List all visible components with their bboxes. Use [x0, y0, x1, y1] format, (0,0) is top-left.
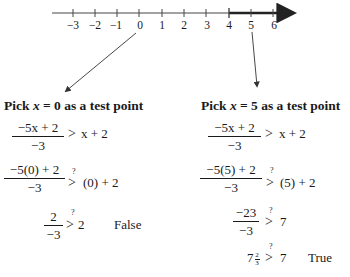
left-step3-fraction: 2 −3	[44, 210, 63, 241]
tick-label: 3	[204, 19, 210, 31]
right-step4-mixed-number: 723	[247, 251, 260, 267]
tick-label: −2	[89, 19, 101, 31]
right-heading: Pick x = 5 as a test point	[201, 98, 340, 114]
tick-label: −1	[110, 19, 122, 31]
tick-label: −3	[67, 19, 79, 31]
left-step3-rhs: 2	[78, 218, 85, 232]
left-step1-fraction: −5x + 2 −3	[12, 121, 64, 152]
number-line	[0, 0, 350, 100]
greater-than-sign: >	[265, 251, 273, 265]
right-step1-rhs: x + 2	[279, 127, 306, 141]
question-mark: ?	[71, 209, 75, 217]
greater-than-sign: >	[66, 218, 74, 232]
left-verdict: False	[114, 218, 141, 232]
right-step3-fraction: −23 −3	[233, 206, 259, 237]
right-step3-rhs: 7	[280, 215, 287, 229]
tick-label: 5	[248, 19, 254, 31]
tick-label: 2	[181, 19, 187, 31]
pointer-arrow-five	[252, 32, 257, 86]
right-step2-fraction: −5(5) + 2 −3	[200, 163, 262, 194]
pointer-arrow-zero	[66, 33, 136, 91]
left-step2-rhs: (0) + 2	[83, 176, 119, 190]
tick-label: 0	[137, 19, 143, 31]
right-step1-fraction: −5x + 2 −3	[208, 121, 261, 152]
left-step1-rhs: x + 2	[81, 127, 108, 141]
greater-than-sign: >	[68, 176, 76, 190]
question-mark: ?	[270, 167, 274, 175]
tick-label: 6	[271, 19, 277, 31]
left-heading: Pick x = 0 as a test point	[4, 98, 143, 114]
right-verdict: True	[308, 251, 332, 265]
greater-than-sign: >	[265, 215, 273, 229]
greater-than-sign: >	[265, 127, 273, 141]
tick-label: 1	[159, 19, 165, 31]
tick-label: 4	[226, 19, 232, 31]
greater-than-sign: >	[68, 127, 76, 141]
right-step2-rhs: (5) + 2	[280, 176, 316, 190]
right-step4-rhs: 7	[280, 251, 287, 265]
left-step2-fraction: −5(0) + 2 −3	[4, 163, 65, 194]
greater-than-sign: >	[266, 176, 274, 190]
